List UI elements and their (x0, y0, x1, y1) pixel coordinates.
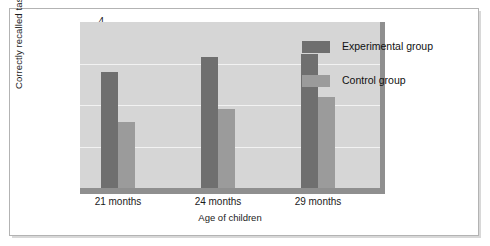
bar-control (118, 122, 135, 188)
y-axis-title: Correctly recalled tasks (13, 0, 24, 98)
bar-control (218, 109, 235, 188)
x-axis-tick-label: 24 months (168, 196, 268, 207)
plot-area: Experimental group Control group (80, 22, 380, 188)
gridline (80, 105, 380, 106)
gridline (80, 64, 380, 65)
legend-swatch-control-icon (302, 75, 330, 87)
frame-shadow-bottom (12, 236, 481, 238)
figure-container: Correctly recalled tasks 01234 Experimen… (0, 0, 490, 246)
x-axis-line (80, 188, 385, 194)
legend-label-control: Control group (342, 74, 406, 87)
x-axis-tick-label: 21 months (68, 196, 168, 207)
x-axis-tick-label: 29 months (268, 196, 368, 207)
frame-shadow-right (479, 11, 481, 238)
legend-swatch-experimental-icon (302, 41, 330, 53)
bar-experimental (201, 57, 218, 188)
bar-control (318, 97, 335, 188)
x-axis-title: Age of children (80, 212, 380, 223)
bar-experimental (101, 72, 118, 188)
legend-label-experimental: Experimental group (342, 40, 433, 53)
